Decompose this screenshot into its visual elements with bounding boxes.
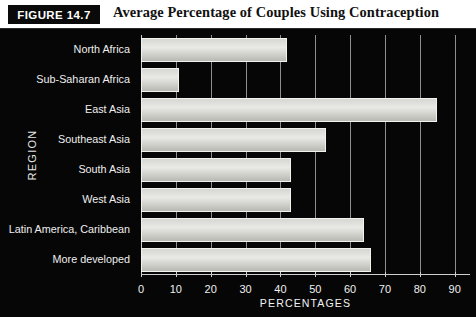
bar-row <box>141 215 470 245</box>
category-label: North Africa <box>0 43 130 55</box>
bar <box>141 218 364 242</box>
figure-page: FIGURE 14.7 Average Percentage of Couple… <box>0 0 476 317</box>
bar <box>141 188 291 212</box>
bar-row <box>141 95 470 125</box>
figure-number-label: FIGURE 14.7 <box>17 9 90 21</box>
figure-title: Average Percentage of Couples Using Cont… <box>113 4 439 21</box>
category-label: Southeast Asia <box>0 133 130 145</box>
category-label: More developed <box>0 253 130 265</box>
plot-area: North AfricaSub-Saharan AfricaEast AsiaS… <box>141 35 470 275</box>
chart-container: REGION North AfricaSub-Saharan AfricaEas… <box>0 29 476 317</box>
bar <box>141 38 287 62</box>
category-label: East Asia <box>0 103 130 115</box>
figure-header: FIGURE 14.7 Average Percentage of Couple… <box>0 0 476 29</box>
bar-row <box>141 125 470 155</box>
bar <box>141 98 437 122</box>
category-label: Sub-Saharan Africa <box>0 73 130 85</box>
figure-number-badge: FIGURE 14.7 <box>8 5 100 24</box>
bar-row <box>141 155 470 185</box>
bar-row <box>141 185 470 215</box>
x-axis-tick-label: 90 <box>435 283 475 295</box>
category-label: West Asia <box>0 193 130 205</box>
category-label: Latin America, Caribbean <box>0 223 130 235</box>
y-axis-title: REGION <box>26 115 38 195</box>
bar <box>141 68 179 92</box>
bar <box>141 158 291 182</box>
bar-row <box>141 245 470 275</box>
chart-canvas: REGION North AfricaSub-Saharan AfricaEas… <box>8 31 468 309</box>
category-label: South Asia <box>0 163 130 175</box>
bar-row <box>141 65 470 95</box>
bar <box>141 128 326 152</box>
bar <box>141 248 371 272</box>
bar-row <box>141 35 470 65</box>
x-axis-title: PERCENTAGES <box>141 297 470 309</box>
